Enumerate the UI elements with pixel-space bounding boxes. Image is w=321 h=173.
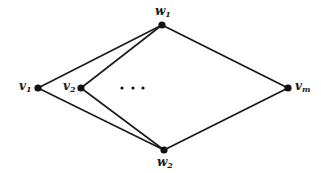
edge-vm-w1 — [162, 25, 288, 88]
label-base: v — [19, 79, 26, 93]
label-sub: 2 — [70, 84, 76, 94]
node-v2 — [77, 84, 84, 91]
node-w2 — [160, 146, 167, 153]
label-sub: m — [302, 84, 310, 94]
ellipsis-dot — [120, 86, 123, 89]
label-base: v — [63, 79, 70, 93]
edge-vm-w2 — [164, 88, 288, 150]
label-w1: w1 — [155, 5, 171, 18]
graph-diagram: w1 w2 v1 v2 vm — [0, 0, 321, 173]
label-v1: v1 — [19, 80, 32, 93]
label-sub: 1 — [165, 9, 171, 19]
label-base: w — [157, 155, 167, 169]
label-sub: 1 — [26, 84, 32, 94]
label-w2: w2 — [157, 156, 173, 169]
label-sub: 2 — [167, 160, 173, 170]
node-w1 — [158, 21, 165, 28]
ellipsis-dot — [141, 86, 144, 89]
ellipsis-dot — [131, 86, 134, 89]
edge-v1-w2 — [38, 88, 164, 150]
label-base: v — [295, 79, 302, 93]
label-vm: vm — [295, 80, 310, 93]
graph-edges — [0, 0, 321, 173]
node-vm — [284, 84, 291, 91]
edge-v1-w1 — [38, 25, 162, 88]
edge-v2-w1 — [81, 25, 162, 88]
node-v1 — [34, 84, 41, 91]
label-v2: v2 — [63, 80, 76, 93]
label-base: w — [155, 4, 165, 18]
edge-v2-w2 — [81, 88, 164, 150]
